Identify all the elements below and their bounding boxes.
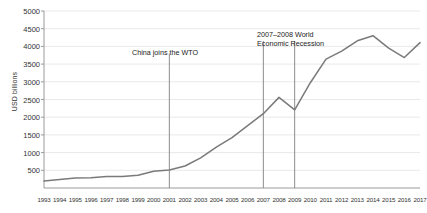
annotation-world-economic-recession: 2007–2008 WorldEconomic Recession: [257, 30, 324, 48]
annotation-recession-line2: Economic Recession: [257, 39, 324, 48]
annotation-recession-line1: 2007–2008 World: [257, 30, 314, 39]
data-series-line: [44, 36, 420, 181]
annotation-china-joins-wto: China joins the WTO: [132, 48, 198, 57]
